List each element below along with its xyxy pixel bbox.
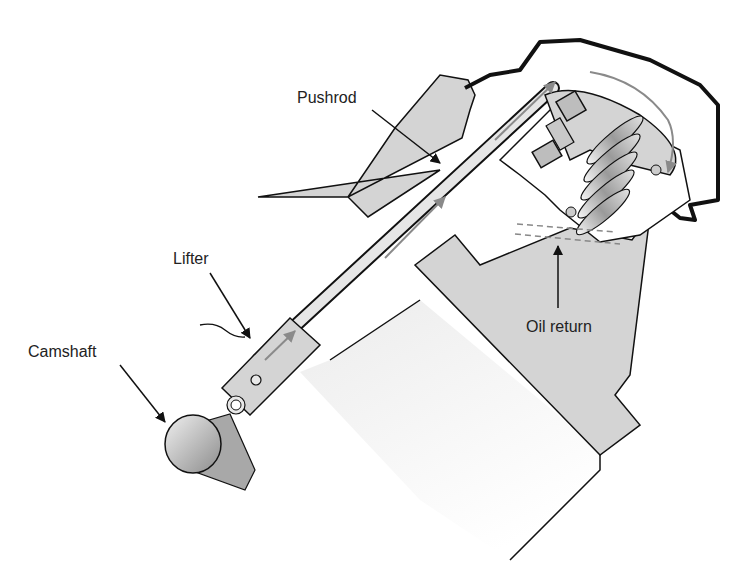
lifter — [222, 318, 320, 415]
lifter-leader-arrow — [210, 273, 250, 338]
lifter-oil-line — [200, 324, 245, 337]
camshaft-label: Camshaft — [28, 343, 97, 360]
oil-return-label: Oil return — [526, 318, 592, 335]
camshaft — [165, 414, 255, 490]
lifter-label: Lifter — [173, 250, 209, 267]
camshaft-leader-arrow — [120, 365, 165, 422]
valve-train-diagram: Pushrod Lifter Camshaft Oil return — [0, 0, 729, 582]
pushrod-label: Pushrod — [297, 89, 357, 106]
